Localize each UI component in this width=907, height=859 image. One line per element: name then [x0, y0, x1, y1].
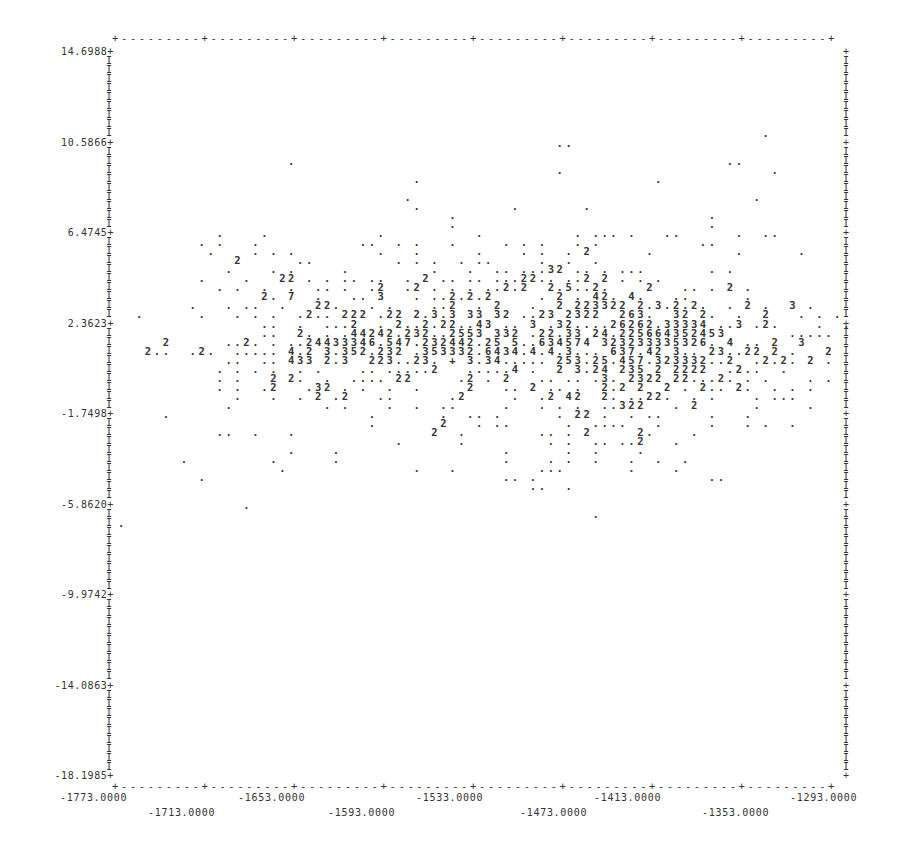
left-axis-mark: I	[104, 671, 114, 681]
bottom-border: +---------+---------+---------+---------…	[112, 781, 837, 791]
x-tick-label: -1593.0000	[328, 808, 395, 818]
x-tick-label: -1413.0000	[594, 793, 661, 803]
top-border: +---------+---------+---------+---------…	[112, 33, 837, 43]
line-printer-scatter-plot: +---------+---------+---------+---------…	[0, 0, 907, 859]
x-tick-label: -1653.0000	[238, 793, 305, 803]
left-axis-mark: I	[104, 219, 114, 229]
y-tick-label: -18.1985+	[54, 771, 114, 781]
x-tick-label: -1293.0000	[790, 793, 857, 803]
x-tick-label: -1713.0000	[148, 808, 215, 818]
left-axis-mark: I	[104, 309, 114, 319]
left-axis-mark: I	[104, 581, 114, 591]
x-tick-label: -1773.0000	[60, 793, 127, 803]
x-tick-label: -1353.0000	[702, 808, 769, 818]
x-tick-label: -1473.0000	[520, 808, 587, 818]
left-axis-mark: I	[104, 762, 114, 772]
left-axis-mark: I	[104, 490, 114, 500]
right-axis-mark: +	[841, 771, 851, 781]
x-tick-label: -1533.0000	[416, 793, 483, 803]
plot-row: .	[118, 518, 843, 528]
left-axis-mark: I	[104, 400, 114, 410]
left-axis-mark: I	[104, 128, 114, 138]
